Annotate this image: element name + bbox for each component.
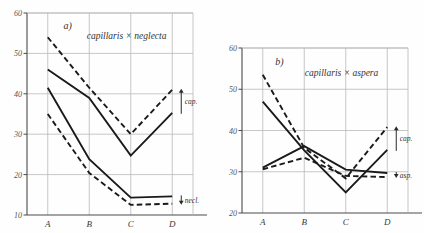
series-group-annotation: cap. [185,97,198,106]
series-group-annotation: necl. [185,196,199,205]
ytick-label: 20 [229,209,237,218]
ytick-label: 30 [13,130,22,139]
panel-a-letter: a) [64,20,73,32]
ytick-label: 50 [14,49,22,58]
panel-b-caption: capillaris × aspera [305,68,379,78]
xtick-label: C [343,217,350,227]
series-line-neglecta-solid [48,88,173,198]
figure-root: 102030405060 ABCD a) capillaris × neglec… [0,0,424,233]
xtick-label: A [259,217,266,227]
panel-a-xtick-labels: ABCD [44,219,176,229]
panel-a-annotations: cap.necl. [179,89,199,205]
xtick-label: D [383,217,391,227]
panel-a-axes [24,13,208,215]
xtick-label: B [87,219,93,229]
series-line-aspera-dashed [263,158,388,177]
series-group-annotation: asp. [400,171,412,180]
ytick-label: 50 [229,85,237,94]
series-group-annotation: cap. [400,134,413,143]
ytick-label: 20 [14,171,22,180]
panel-a-ytick-labels: 102030405060 [13,9,22,220]
panel-a-series [48,37,173,205]
ytick-label: 40 [14,90,22,99]
panel-b-series [263,75,388,193]
panel-b-letter: b) [275,56,284,68]
xtick-label: A [44,219,51,229]
ytick-label: 30 [228,168,237,177]
ytick-label: 40 [229,127,237,136]
panel-a-chart: 102030405060 ABCD a) capillaris × neglec… [0,0,212,233]
panel-b-chart: 2030405060 ABCD b) capillaris × aspera c… [212,0,424,233]
panel-a-caption: capillaris × neglecta [87,31,167,41]
series-line-capillaris-dashed [263,75,388,179]
series-line-capillaris-solid [48,70,173,156]
ytick-label: 60 [229,44,237,53]
xtick-label: D [168,219,176,229]
series-line-capillaris-solid [263,102,388,193]
ytick-label: 60 [14,9,22,18]
xtick-label: C [128,219,135,229]
ytick-label: 10 [14,211,22,220]
panel-a-grid [27,13,193,215]
panel-b-xtick-labels: ABCD [259,217,391,227]
panel-b-ytick-labels: 2030405060 [228,44,237,218]
xtick-label: B [302,217,308,227]
